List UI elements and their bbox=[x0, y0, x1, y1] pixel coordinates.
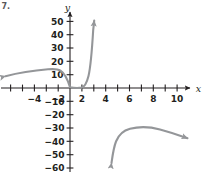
x-tick-label: −4 bbox=[27, 94, 41, 104]
y-tick-label: 30 bbox=[51, 43, 64, 53]
y-axis-label: y bbox=[64, 2, 71, 13]
x-axis-label: x bbox=[196, 83, 202, 94]
y-tick-label: 50 bbox=[51, 17, 64, 27]
y-tick-label: −50 bbox=[44, 150, 64, 160]
y-tick-label: −30 bbox=[44, 123, 64, 133]
curve-increasing-exponential bbox=[6, 21, 95, 88]
x-tick-label: 4 bbox=[103, 94, 109, 104]
x-tick-label: 6 bbox=[126, 94, 132, 104]
x-tick-label: 8 bbox=[150, 94, 156, 104]
y-tick-label: 40 bbox=[51, 30, 64, 40]
y-tick-label: −20 bbox=[44, 110, 64, 120]
y-tick-label: −10 bbox=[44, 97, 64, 107]
y-tick-label: −40 bbox=[44, 137, 64, 147]
y-tick-label: −60 bbox=[44, 163, 64, 173]
x-tick-label: 2 bbox=[79, 94, 85, 104]
figure-canvas: −4 −2 2 4 6 8 10 50 40 30 20 10 −10 −20 … bbox=[0, 0, 205, 173]
curve-decreasing-exponential bbox=[112, 127, 188, 163]
coordinate-plane: −4 −2 2 4 6 8 10 50 40 30 20 10 −10 −20 … bbox=[0, 0, 205, 173]
y-tick-label: 20 bbox=[51, 57, 64, 67]
curves-group bbox=[6, 21, 188, 164]
x-tick-label: 10 bbox=[171, 94, 184, 104]
figure-number-label: 7. bbox=[2, 2, 11, 11]
axes-group bbox=[1, 12, 190, 172]
